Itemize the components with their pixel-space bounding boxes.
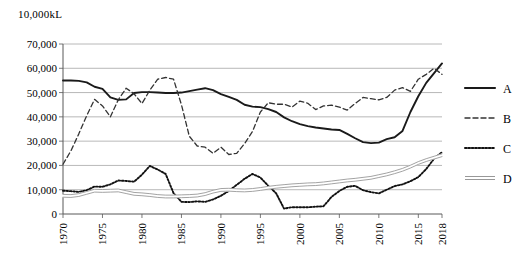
y-axis-ticks-group: 010,00020,00030,00040,00050,00060,00070,… bbox=[27, 38, 63, 220]
legend-label-D: D bbox=[503, 172, 512, 186]
series-line-A bbox=[63, 63, 442, 143]
x-axis-tick-label: 1980 bbox=[136, 223, 148, 246]
legend-label-A: A bbox=[503, 82, 512, 96]
x-axis-tick-label: 2005 bbox=[333, 223, 345, 246]
y-axis-tick-label: 70,000 bbox=[27, 38, 58, 50]
x-axis-ticks-group: 1970197519801985199019952000200520102015… bbox=[57, 214, 448, 245]
x-axis-tick-label: 2000 bbox=[294, 223, 306, 246]
legend-group: ABCD bbox=[465, 82, 512, 186]
x-axis-tick-label: 1975 bbox=[96, 223, 108, 246]
y-axis-tick-label: 40,000 bbox=[27, 111, 58, 123]
gridlines-group bbox=[63, 44, 442, 190]
x-axis-tick-label: 2018 bbox=[436, 223, 448, 246]
y-axis-tick-label: 30,000 bbox=[27, 135, 58, 147]
y-axis-tick-label: 60,000 bbox=[27, 62, 58, 74]
line-chart-plot: 010,00020,00030,00040,00050,00060,00070,… bbox=[0, 0, 528, 271]
x-axis-tick-label: 2010 bbox=[373, 223, 385, 246]
data-series-group bbox=[63, 63, 442, 208]
y-axis-tick-label: 0 bbox=[52, 208, 58, 220]
y-axis-tick-label: 50,000 bbox=[27, 87, 58, 99]
x-axis-tick-label: 1985 bbox=[175, 223, 187, 246]
x-axis-tick-label: 1970 bbox=[57, 223, 69, 246]
x-axis-tick-label: 1995 bbox=[254, 223, 266, 246]
x-axis-tick-label: 1990 bbox=[215, 223, 227, 246]
series-line-C bbox=[63, 152, 442, 209]
chart-container: 10,000kL 010,00020,00030,00040,00050,000… bbox=[0, 0, 528, 271]
legend-label-C: C bbox=[503, 142, 511, 156]
y-axis-tick-label: 20,000 bbox=[27, 159, 58, 171]
x-axis-tick-label: 2015 bbox=[412, 223, 424, 246]
y-axis-tick-label: 10,000 bbox=[27, 184, 58, 196]
legend-label-B: B bbox=[503, 112, 511, 126]
series-line-B bbox=[63, 68, 442, 164]
